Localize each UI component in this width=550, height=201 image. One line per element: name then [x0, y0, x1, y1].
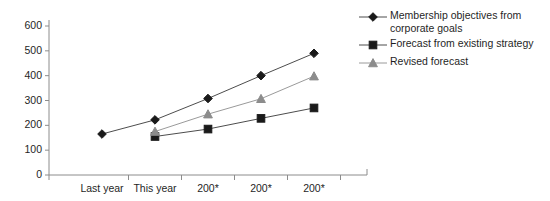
legend-item[interactable]: Membership objectives from corporate goa…: [358, 9, 550, 34]
y-axis-tick-label: 100: [12, 144, 42, 155]
y-axis-tick-label: 600: [12, 20, 42, 31]
y-axis-tick-label: 0: [12, 169, 42, 180]
triangle-icon: [358, 56, 388, 70]
y-axis-tick-label: 500: [12, 45, 42, 56]
diamond-marker: [151, 116, 160, 125]
legend-item[interactable]: Forecast from existing strategy: [358, 37, 550, 52]
y-axis-tick-label: 300: [12, 95, 42, 106]
diamond-marker: [257, 71, 266, 80]
plot-area: 6005004003002001000 Last yearThis year20…: [0, 0, 380, 201]
x-axis-tick-label: 200*: [279, 183, 349, 194]
triangle-marker: [310, 72, 319, 80]
triangle-marker: [204, 110, 213, 118]
legend-label: Forecast from existing strategy: [388, 37, 534, 50]
y-axis-tick-label: 200: [12, 119, 42, 130]
series-line-1: [155, 108, 314, 137]
legend-item[interactable]: Revised forecast: [358, 55, 550, 70]
chart-figure: 6005004003002001000 Last yearThis year20…: [0, 0, 550, 201]
legend-label: Revised forecast: [388, 55, 468, 68]
legend-label: Membership objectives from corporate goa…: [388, 9, 550, 34]
legend-swatch: [358, 56, 388, 70]
chart-legend: Membership objectives from corporate goa…: [358, 9, 550, 73]
diamond-icon: [358, 10, 388, 24]
square-icon: [358, 38, 388, 52]
diamond-marker: [98, 130, 107, 139]
y-axis-tick-label: 400: [12, 70, 42, 81]
triangle-marker: [151, 127, 160, 135]
diamond-marker: [310, 49, 319, 58]
square-marker: [257, 115, 265, 123]
square-marker: [204, 125, 212, 133]
square-marker: [310, 104, 318, 112]
chart-canvas: [0, 0, 380, 201]
square-marker: [369, 41, 377, 49]
triangle-marker: [257, 94, 266, 102]
legend-swatch: [358, 10, 388, 24]
diamond-marker: [369, 13, 378, 22]
legend-swatch: [358, 38, 388, 52]
diamond-marker: [204, 94, 213, 103]
